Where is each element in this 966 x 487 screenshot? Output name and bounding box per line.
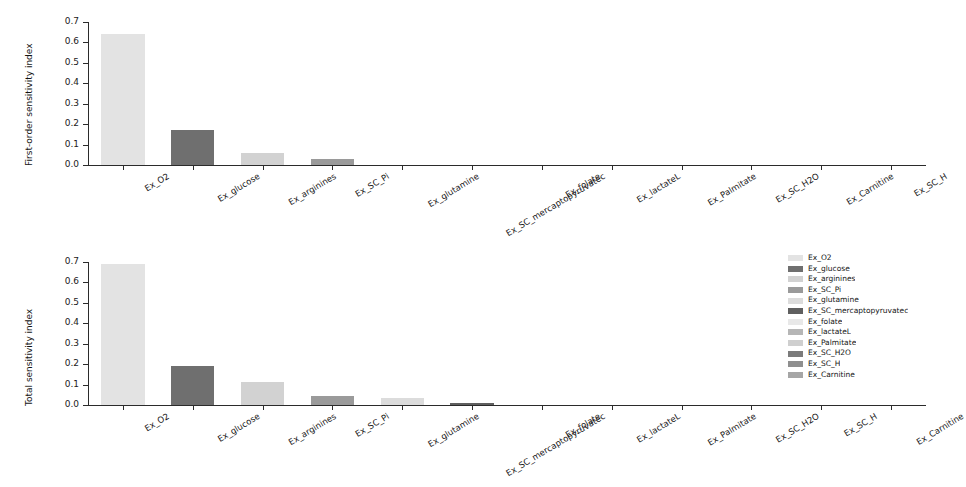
x-axis-tick-label: Ex_SC_H [842,411,879,439]
legend-item: Ex_Palmitate [788,338,956,349]
legend-label: Ex_SC_H2O [808,348,851,359]
x-axis-tick-label: Ex_Carnitine [915,411,966,448]
legend-swatch [788,308,803,314]
y-axis-tick: 0.4 [83,323,88,324]
bar-ex-sc-mercaptopyruvatec [450,403,493,405]
legend-swatch [788,351,803,357]
y-axis-tick-label: 0.4 [65,76,79,89]
bar-ex-glucose [171,366,214,405]
y-axis-tick: 0.6 [83,282,88,283]
y-axis-tick-label: 0.0 [65,158,79,171]
legend-item: Ex_lactateL [788,327,956,338]
x-axis-tick-label: Ex_Palmitate [705,171,758,209]
y-axis-tick: 0.3 [83,344,88,345]
x-axis-tick [542,166,543,170]
x-axis-tick [332,166,333,170]
y-axis-label-total: Total sensitivity index [24,309,35,406]
x-axis-tick-label: Ex_lactateL [635,411,682,446]
x-axis-tick-label: Ex_SC_Pi [354,411,392,440]
y-axis-tick: 0.2 [83,364,88,365]
legend-label: Ex_Palmitate [808,338,856,349]
x-axis-tick [821,166,822,170]
y-axis-spine [88,22,89,166]
y-axis-tick-label: 0.4 [65,316,79,329]
bar-ex-o2 [101,264,144,405]
y-axis-tick-label: 0.2 [65,357,79,370]
x-axis-tick-label: Ex_glutamine [426,411,481,450]
x-axis-tick-label: Ex_SC_H [912,171,949,199]
y-axis-tick-label: 0.1 [65,378,79,391]
x-axis-tick [821,406,822,410]
y-axis-tick: 0.1 [83,145,88,146]
legend-label: Ex_glutamine [808,295,859,306]
x-axis-spine [88,405,926,406]
legend-label: Ex_folate [808,317,842,328]
y-axis-tick-label: 0.3 [65,97,79,110]
x-axis-tick-label: Ex_glutamine [426,171,481,210]
y-axis-tick-label: 0.1 [65,138,79,151]
x-axis-tick-label: Ex_O2 [143,411,172,434]
y-axis-tick-label: 0.6 [65,275,79,288]
legend-label: Ex_Carnitine [808,370,855,381]
legend-item: Ex_SC_mercaptopyruvatec [788,306,956,317]
y-axis-tick: 0.6 [83,42,88,43]
legend: Ex_O2Ex_glucoseEx_argininesEx_SC_PiEx_gl… [788,253,956,380]
x-axis-tick-label: Ex_lactateL [635,171,682,206]
y-axis-tick: 0.3 [83,104,88,105]
legend-label: Ex_SC_H [808,359,840,370]
y-axis-tick: 0.7 [83,22,88,23]
legend-item: Ex_SC_H2O [788,348,956,359]
legend-swatch [788,287,803,293]
y-axis-tick: 0.1 [83,385,88,386]
y-axis-tick-label: 0.5 [65,296,79,309]
x-axis-tick [263,406,264,410]
legend-item: Ex_O2 [788,253,956,264]
legend-label: Ex_lactateL [808,327,851,338]
x-axis-tick-label: Ex_SC_Pi [354,171,392,200]
bar-ex-arginines [241,382,284,405]
y-axis-tick-label: 0.7 [65,255,79,268]
legend-label: Ex_SC_Pi [808,285,841,296]
legend-label: Ex_SC_mercaptopyruvatec [808,306,908,317]
x-axis-tick [891,406,892,410]
subplot-first-order: First-order sensitivity index 0.00.10.20… [0,0,960,243]
legend-swatch [788,276,803,282]
x-axis-tick [193,166,194,170]
x-axis-tick [263,166,264,170]
bar-ex-sc-pi [311,396,354,405]
x-axis-spine [88,165,926,166]
x-axis-tick [682,406,683,410]
y-axis-tick-label: 0.6 [65,35,79,48]
legend-swatch [788,255,803,261]
bar-ex-glucose [171,130,214,165]
x-axis-tick [612,406,613,410]
legend-swatch [788,298,803,304]
legend-item: Ex_SC_Pi [788,285,956,296]
y-axis-tick-label: 0.3 [65,337,79,350]
y-axis-tick: 0.5 [83,63,88,64]
x-axis-tick-label: Ex_SC_H2O [774,171,821,206]
x-axis-tick-label: Ex_SC_H2O [774,411,821,446]
x-axis-tick [472,166,473,170]
legend-swatch [788,361,803,367]
x-axis-tick-label: Ex_O2 [143,171,172,194]
legend-item: Ex_arginines [788,274,956,285]
y-axis-spine [88,262,89,406]
y-axis-label-first-order: First-order sensitivity index [24,43,35,166]
legend-item: Ex_Carnitine [788,370,956,381]
legend-swatch [788,266,803,272]
x-axis-tick [542,406,543,410]
y-axis-tick: 0.0 [83,405,88,406]
x-axis-tick [123,406,124,410]
bar-ex-sc-pi [311,159,354,165]
y-axis-tick: 0.2 [83,124,88,125]
y-axis-tick-label: 0.5 [65,56,79,69]
legend-item: Ex_glutamine [788,295,956,306]
y-axis-tick-label: 0.7 [65,15,79,28]
x-axis-tick [472,406,473,410]
bar-ex-glutamine [381,398,424,405]
x-axis-tick-label: Ex_glucose [216,411,262,445]
legend-item: Ex_folate [788,317,956,328]
x-axis-tick [891,166,892,170]
x-axis-tick [751,166,752,170]
